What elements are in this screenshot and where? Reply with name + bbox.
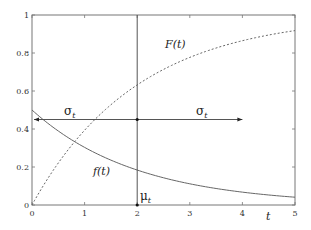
arrow-head — [34, 118, 39, 122]
arrow-head — [237, 118, 242, 122]
sigma-left-label: σt — [64, 104, 76, 120]
mu-label: μt — [140, 189, 152, 205]
y-tick-label: 0.6 — [16, 87, 29, 96]
f-label: f(t) — [92, 165, 110, 178]
mean-point — [136, 203, 139, 206]
axis-ticks: 01234500.20.40.60.81 — [16, 11, 297, 218]
annotations: F(t) f(t) σt σt μt t — [64, 38, 271, 223]
x-axis-label: t — [266, 210, 271, 223]
y-tick-label: 0.2 — [16, 163, 29, 172]
y-tick-label: 0.8 — [16, 49, 29, 58]
F-label: F(t) — [164, 38, 186, 51]
x-tick-label: 2 — [135, 209, 140, 218]
y-tick-label: 1 — [24, 11, 29, 20]
x-tick-label: 0 — [29, 209, 34, 218]
y-tick-label: 0.4 — [16, 125, 29, 134]
x-tick-label: 4 — [240, 209, 245, 218]
y-tick-label: 0 — [24, 201, 29, 210]
chart: 01234500.20.40.60.81 F(t) f(t) σt σt μt … — [0, 0, 311, 230]
sigma-right-label: σt — [196, 104, 208, 120]
x-tick-label: 3 — [187, 209, 192, 218]
x-tick-label: 5 — [292, 209, 297, 218]
x-tick-label: 1 — [82, 209, 87, 218]
f-curve — [32, 110, 295, 197]
center-point — [136, 118, 139, 121]
